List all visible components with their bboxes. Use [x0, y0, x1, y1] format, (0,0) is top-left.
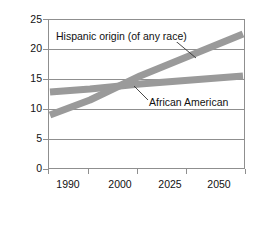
x-tick-mark-right-edge	[245, 169, 246, 174]
gridline-10	[49, 109, 244, 110]
cut-off-title: · · · · · ·	[0, 0, 261, 9]
x-tick-label-2025: 2025	[150, 179, 190, 190]
annotation-african-american: African American	[148, 97, 229, 108]
x-tick-label-2000: 2000	[100, 179, 140, 190]
x-tick-mark-left-edge	[48, 169, 49, 174]
x-tick-label-2050: 2050	[199, 179, 239, 190]
y-tick-label-20: 20	[21, 43, 42, 54]
gridline-20	[49, 49, 244, 50]
annotation-hispanic: Hispanic origin (of any race)	[55, 31, 188, 42]
gridline-5	[49, 139, 244, 140]
y-tick-label-25: 25	[21, 14, 42, 25]
y-tick-label-15: 15	[21, 73, 42, 84]
y-tick-label-5: 5	[21, 133, 42, 144]
x-tick-mark-1	[88, 169, 89, 174]
chart-figure: · · · · · · 25 20 15 10 5 0 1990 2000 20…	[0, 0, 261, 243]
gridline-15	[49, 79, 244, 80]
y-tick-label-10: 10	[21, 103, 42, 114]
x-tick-label-1990: 1990	[48, 179, 88, 190]
x-tick-mark-2	[137, 169, 138, 174]
x-tick-mark-3	[186, 169, 187, 174]
y-tick-label-0: 0	[21, 163, 42, 174]
